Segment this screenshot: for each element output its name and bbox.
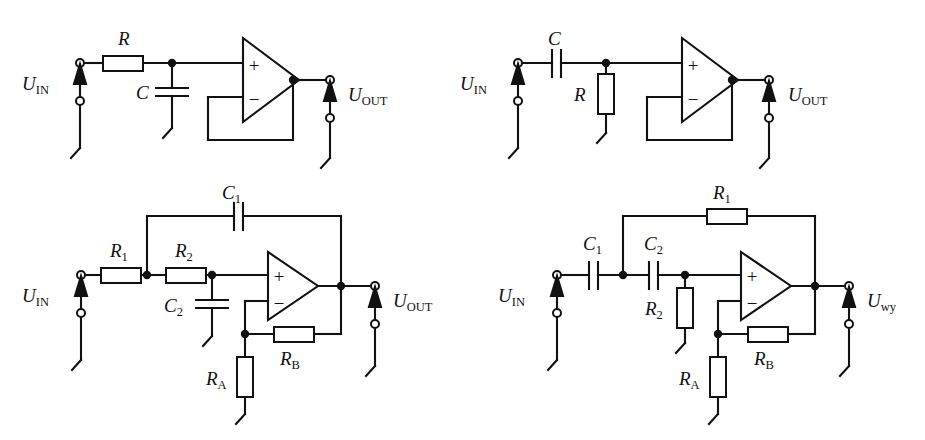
- resistor-R2: [677, 288, 693, 328]
- junction-dot: [337, 282, 345, 290]
- resistor-R2: [166, 268, 206, 283]
- junction-dot: [289, 76, 297, 84]
- terminal-node-bottom: [553, 309, 561, 317]
- opamp-plus-sign: +: [248, 55, 261, 76]
- resistor-RA: [237, 357, 253, 397]
- component-label-C: C: [136, 82, 149, 103]
- opamp-minus-sign: −: [746, 293, 759, 314]
- terminal-node-bottom: [326, 114, 334, 122]
- resistor-R: [598, 74, 614, 114]
- opamp-minus-sign: −: [248, 89, 261, 110]
- resistor-RB: [748, 327, 788, 342]
- opamp-plus-sign: +: [746, 266, 759, 287]
- resistor-R: [103, 56, 143, 71]
- opamp-plus-sign: +: [687, 55, 700, 76]
- component-label-C: C: [548, 28, 561, 49]
- resistor-RB: [274, 327, 314, 342]
- terminal-node-bottom: [371, 320, 379, 328]
- resistor-R1: [101, 268, 141, 283]
- resistor-R1: [707, 209, 747, 224]
- opamp-minus-sign: −: [273, 293, 286, 314]
- junction-dot: [728, 76, 736, 84]
- terminal-node-bottom: [76, 97, 84, 105]
- terminal-node-bottom: [514, 97, 522, 105]
- opamp-plus-sign: +: [273, 266, 286, 287]
- terminal-node-bottom: [77, 309, 85, 317]
- component-label-R: R: [117, 28, 130, 49]
- terminal-node-bottom: [845, 320, 853, 328]
- schematic-canvas: + − + − + − + − UIN R C UOUT UIN C R: [0, 0, 925, 440]
- circuit-figure: + − + − + − + − UIN R C UOUT UIN C R: [0, 0, 925, 440]
- component-label-R: R: [573, 84, 586, 105]
- resistor-RA: [710, 357, 726, 397]
- terminal-node-bottom: [765, 114, 773, 122]
- junction-dot: [811, 282, 819, 290]
- opamp-minus-sign: −: [687, 89, 700, 110]
